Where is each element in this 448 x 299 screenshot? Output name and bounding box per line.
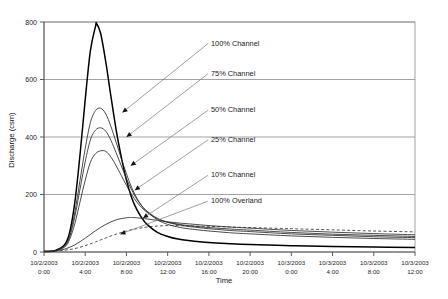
annotation-label-75-channel: 75% Channel <box>211 69 256 78</box>
x-tick-label-date: 10/2/2003 <box>113 259 141 266</box>
annotation-arrowhead-50-channel <box>131 161 137 166</box>
discharge-hydrograph-chart: 100% Channel75% Channel50% Channel25% Ch… <box>0 0 448 299</box>
annotation-leader-10-channel <box>143 175 208 218</box>
series-curve-75-channel <box>44 108 415 251</box>
x-tick-label-time: 8:00 <box>120 268 133 275</box>
annotation-leader-100-channel <box>122 44 208 113</box>
annotation-label-10-channel: 10% Channel <box>211 170 256 179</box>
y-tick-label: 200 <box>25 191 37 198</box>
x-tick-label-date: 10/2/2003 <box>236 259 264 266</box>
x-tick-label-time: 0:00 <box>38 268 51 275</box>
x-axis-title: Time <box>216 276 233 285</box>
x-tick-label-time: 20:00 <box>242 268 258 275</box>
y-axis-title: Discharge (csm) <box>7 112 16 168</box>
x-tick-label-date: 10/3/2003 <box>278 259 306 266</box>
x-tick-label-date: 10/3/2003 <box>360 259 388 266</box>
x-tick-label-date: 10/3/2003 <box>319 259 347 266</box>
x-tick-label-date: 10/3/2003 <box>401 259 429 266</box>
annotation-arrowhead-100-channel <box>122 107 128 112</box>
annotation-arrowhead-25-channel <box>135 185 141 190</box>
y-tick-label: 0 <box>33 249 37 256</box>
annotation-label-50-channel: 50% Channel <box>211 105 256 114</box>
x-tick-label-time: 4:00 <box>79 268 92 275</box>
x-tick-label-time: 12:00 <box>160 268 176 275</box>
annotation-label-100-channel: 100% Channel <box>211 39 260 48</box>
annotation-leader-75-channel <box>126 74 208 137</box>
x-tick-label-time: 16:00 <box>201 268 217 275</box>
y-tick-label: 600 <box>25 76 37 83</box>
annotation-arrowhead-10-channel <box>143 213 149 218</box>
x-tick-label-time: 0:00 <box>285 268 298 275</box>
x-tick-label-date: 10/2/2003 <box>71 259 99 266</box>
y-tick-label: 400 <box>25 134 37 141</box>
x-tick-label-time: 8:00 <box>368 268 381 275</box>
x-tick-label-date: 10/2/2003 <box>154 259 182 266</box>
annotation-leader-50-channel <box>131 110 208 165</box>
annotation-label-100-overland: 100% Overland <box>211 196 262 205</box>
x-tick-label-date: 10/2/2003 <box>30 259 58 266</box>
annotation-label-25-channel: 25% Channel <box>211 135 256 144</box>
x-tick-label-date: 10/2/2003 <box>195 259 223 266</box>
x-tick-label-time: 4:00 <box>327 268 340 275</box>
chart-canvas: 100% Channel75% Channel50% Channel25% Ch… <box>0 0 448 299</box>
x-tick-label-time: 12:00 <box>407 268 423 275</box>
y-tick-label: 800 <box>25 19 37 26</box>
annotation-arrowhead-75-channel <box>126 132 132 137</box>
